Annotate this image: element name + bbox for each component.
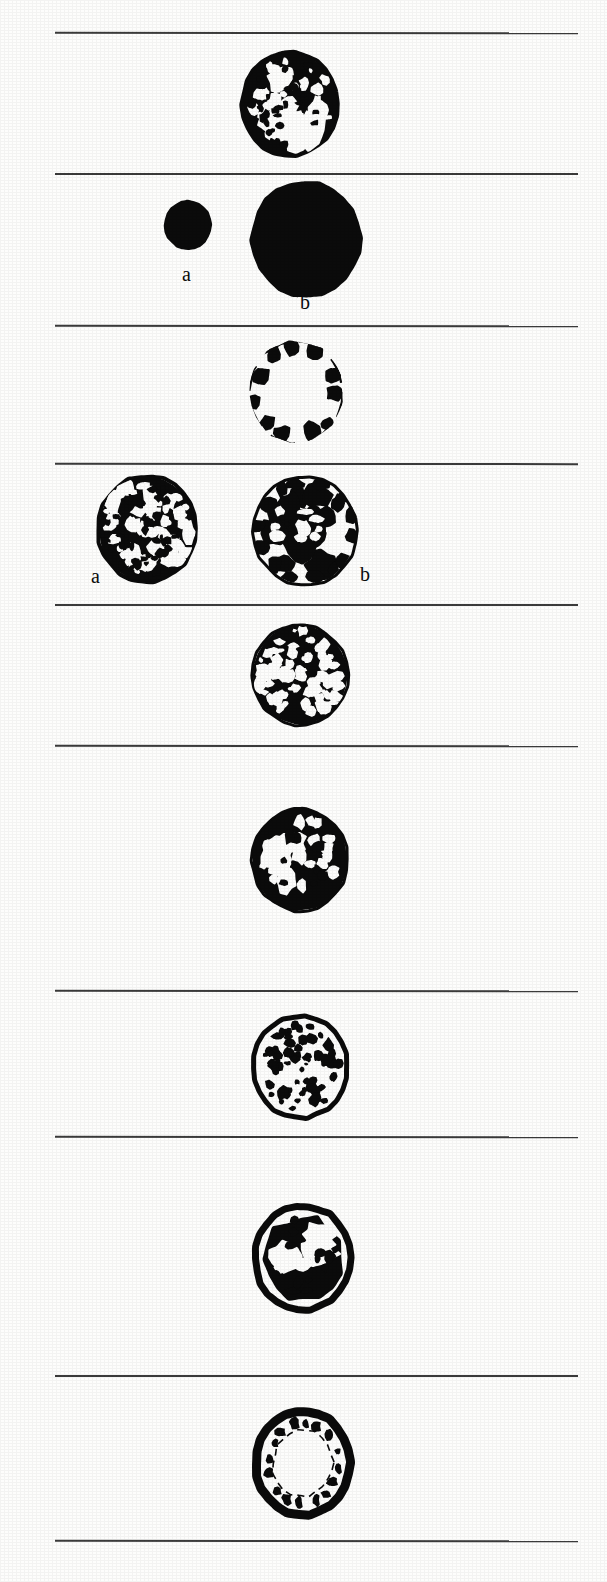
horizontal-rule-7 [55,990,578,993]
horizontal-rule-10 [55,1540,578,1543]
figure-plate: abab [0,0,607,1582]
horizontal-rule-5 [55,604,578,606]
section-irregular-patches [246,803,354,917]
section-dense-speckled [246,619,354,731]
horizontal-rule-6 [55,745,578,747]
section-coarse-mottled [247,471,363,591]
panel-label-a-1: a [182,264,191,284]
section-solid-small [158,194,218,256]
panel-label-b-2: b [300,292,310,312]
section-reticulate [236,46,344,162]
horizontal-rule-1 [55,32,578,34]
panel-label-b-4: b [360,564,370,584]
horizontal-rule-3 [55,325,578,328]
section-hollow-thick-wall [250,1405,356,1521]
section-fine-mottled [92,470,202,588]
horizontal-rule-4 [55,463,578,465]
panel-label-a-3: a [91,566,100,586]
horizontal-rule-8 [55,1136,578,1138]
section-thick-wall-lobed-core [249,1200,357,1316]
section-peripheral-ring-blots [243,335,349,449]
horizontal-rule-9 [55,1375,578,1377]
section-sparse-granules [247,1010,353,1124]
section-solid-large [244,175,368,303]
